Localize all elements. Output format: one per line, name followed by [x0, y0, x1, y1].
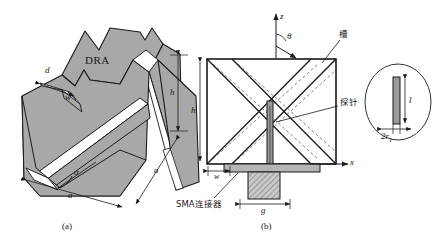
caption-panel-a: (a)	[62, 222, 72, 231]
dra-body-label: DRA	[85, 55, 110, 66]
inset-label-subscript: 1	[389, 136, 392, 143]
panel-a-drawing	[0, 0, 199, 207]
dim-label-g: g	[261, 206, 266, 215]
inset-label-l: l	[409, 96, 412, 105]
dim-label-h-b: h	[191, 106, 196, 115]
axis-theta-ray	[276, 46, 296, 58]
annotation-slot: 槽	[339, 30, 348, 39]
angle-label-alpha: α	[74, 168, 79, 177]
panel-b-drawing	[200, 14, 348, 209]
inset-probe-bar	[393, 77, 400, 124]
axis-label-x: x	[350, 158, 354, 167]
inset-label-2r1: 2r1	[381, 132, 392, 143]
dim-label-a-depth: a	[154, 166, 159, 175]
caption-panel-b: (b)	[261, 222, 272, 231]
axis-theta-arc	[276, 34, 286, 41]
ground-plane	[224, 164, 320, 172]
figure-root: DRA d w h a a α (a) z θ x 槽 探针 SMA连接器 h …	[0, 0, 438, 247]
annotation-probe: 探针	[340, 98, 358, 107]
probe-detail-inset	[365, 64, 431, 140]
annotation-sma-connector: SMA连接器	[176, 200, 222, 209]
inset-label-2r: 2r	[381, 131, 389, 141]
dim-label-d: d	[45, 66, 50, 75]
dim-label-w-b: w	[214, 173, 219, 181]
dim-label-a-front: a	[68, 191, 73, 200]
axis-label-z: z	[280, 12, 284, 21]
figure-canvas	[0, 0, 438, 247]
dim-label-h-a: h	[170, 88, 175, 97]
axis-label-theta: θ	[287, 32, 291, 41]
dim-label-w-a: w	[65, 93, 71, 102]
sma-body	[248, 172, 280, 199]
